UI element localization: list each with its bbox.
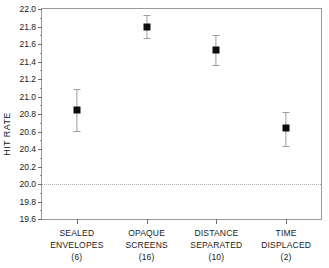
x-axis-label-line: SEPARATED	[190, 240, 242, 252]
y-axis-tick	[38, 97, 42, 98]
y-axis-minor-tick	[40, 70, 43, 71]
y-axis-minor-tick	[40, 140, 43, 141]
y-axis-minor-tick	[40, 53, 43, 54]
error-bar-cap-lower	[143, 38, 150, 39]
x-axis-sample-size: (6)	[50, 252, 103, 264]
data-marker	[73, 106, 80, 113]
x-axis-tick-label: DISTANCESEPARATED(10)	[190, 228, 242, 264]
x-axis-label-line: ENVELOPES	[50, 240, 103, 252]
y-axis-minor-tick	[40, 193, 43, 194]
y-axis-tick-label: 21.6	[19, 39, 36, 49]
y-axis-tick	[38, 114, 42, 115]
y-axis-tick	[38, 184, 42, 185]
x-axis-label-line: DISPLACED	[261, 240, 311, 252]
x-axis-sample-size: (16)	[125, 252, 168, 264]
x-axis-label-line: DISTANCE	[190, 228, 242, 240]
x-axis-sample-size: (10)	[190, 252, 242, 264]
error-bar-cap-upper	[213, 35, 220, 36]
y-axis-tick-label: 20.4	[19, 144, 36, 154]
x-axis-tick-label: SEALEDENVELOPES(6)	[50, 228, 103, 264]
y-axis-tick	[38, 167, 42, 168]
error-bar-cap-upper	[283, 112, 290, 113]
y-axis-tick-label: 20.0	[19, 179, 36, 189]
reference-line	[42, 184, 321, 185]
y-axis-tick-label: 22.0	[19, 4, 36, 14]
x-axis-label-line: TIME	[261, 228, 311, 240]
chart-figure: HIT RATE 19.619.820.020.220.420.620.821.…	[0, 0, 329, 268]
y-axis-tick	[38, 9, 42, 10]
x-axis-tick-label: TIMEDISPLACED(2)	[261, 228, 311, 264]
y-axis-tick	[38, 79, 42, 80]
y-axis-tick	[38, 202, 42, 203]
y-axis-tick-label: 21.2	[19, 74, 36, 84]
x-axis-tick	[77, 219, 78, 224]
y-axis-tick	[38, 149, 42, 150]
y-axis-tick-label: 21.4	[19, 57, 36, 67]
error-bar-cap-lower	[283, 146, 290, 147]
y-axis-minor-tick	[40, 18, 43, 19]
y-axis-minor-tick	[40, 175, 43, 176]
y-axis-tick	[38, 62, 42, 63]
error-bar-cap-lower	[213, 65, 220, 66]
y-axis-tick-label: 20.2	[19, 162, 36, 172]
error-bar-cap-upper	[73, 89, 80, 90]
y-axis-minor-tick	[40, 123, 43, 124]
y-axis-minor-tick	[40, 158, 43, 159]
data-marker	[213, 47, 220, 54]
y-axis-tick-label: 21.0	[19, 92, 36, 102]
y-axis-tick-label: 20.6	[19, 127, 36, 137]
x-axis-tick-label: OPAQUESCREENS(16)	[125, 228, 168, 264]
y-axis-title: HIT RATE	[0, 0, 14, 268]
x-axis-tick	[216, 219, 217, 224]
y-axis-tick	[38, 219, 42, 220]
y-axis-minor-tick	[40, 35, 43, 36]
y-axis-tick-label: 20.8	[19, 109, 36, 119]
x-axis-tick	[286, 219, 287, 224]
y-axis-tick	[38, 27, 42, 28]
y-axis-minor-tick	[40, 105, 43, 106]
y-axis-tick-label: 21.8	[19, 22, 36, 32]
y-axis-tick-label: 19.6	[19, 214, 36, 224]
x-axis-sample-size: (2)	[261, 252, 311, 264]
y-axis-minor-tick	[40, 88, 43, 89]
data-marker	[143, 23, 150, 30]
error-bar-cap-upper	[143, 15, 150, 16]
x-axis-label-line: SEALED	[50, 228, 103, 240]
y-axis-minor-tick	[40, 210, 43, 211]
x-axis-tick	[147, 219, 148, 224]
x-axis-label-line: SCREENS	[125, 240, 168, 252]
y-axis-tick	[38, 44, 42, 45]
x-axis-label-line: OPAQUE	[125, 228, 168, 240]
plot-area: 19.619.820.020.220.420.620.821.021.221.4…	[41, 8, 322, 220]
data-marker	[283, 125, 290, 132]
plot-inner: 19.619.820.020.220.420.620.821.021.221.4…	[42, 9, 321, 219]
y-axis-tick	[38, 132, 42, 133]
error-bar-cap-lower	[73, 131, 80, 132]
y-axis-tick-label: 19.8	[19, 197, 36, 207]
